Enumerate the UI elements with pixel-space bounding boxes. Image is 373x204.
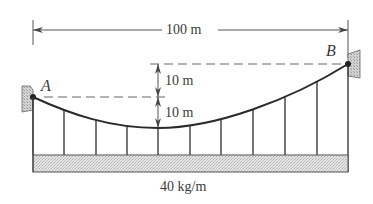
load-label: 40 kg/m [160, 180, 206, 194]
lower-sag-label: 10 m [165, 106, 193, 120]
upper-rise-label: 10 m [165, 74, 193, 88]
deck [33, 155, 348, 172]
span-label: 100 m [162, 23, 205, 37]
point-b-label: B [326, 44, 336, 58]
point-b-marker [345, 61, 351, 67]
point-a-label: A [41, 79, 51, 93]
